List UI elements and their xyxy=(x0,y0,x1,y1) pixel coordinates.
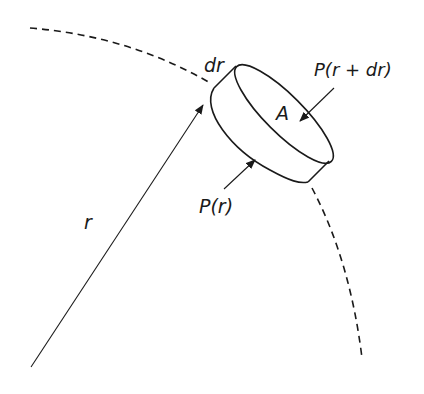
pressure-outer-arrow xyxy=(300,88,334,121)
label-pressure-outer: P(r + dr) xyxy=(314,61,392,79)
boundary-arc-upper xyxy=(30,28,212,84)
label-pressure-inner: P(r) xyxy=(199,197,233,216)
boundary-arc-lower xyxy=(312,188,362,358)
pressure-inner-arrow xyxy=(224,160,255,189)
inner-face-edge xyxy=(211,88,308,183)
side-edge-bottom xyxy=(308,161,329,182)
label-area: A xyxy=(276,104,289,123)
radius-arrow xyxy=(31,105,203,367)
label-thickness: dr xyxy=(204,56,224,75)
label-radius: r xyxy=(84,213,92,232)
